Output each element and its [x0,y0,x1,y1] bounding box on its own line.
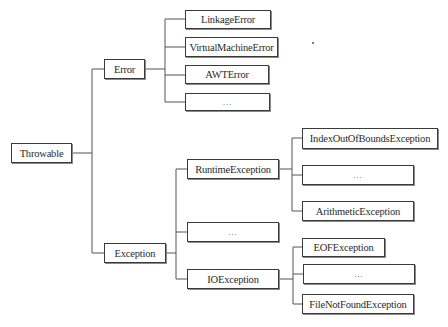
node-linkage-error: LinkageError [185,10,271,29]
connector-exception [166,169,187,279]
node-io-exception: IOException [187,269,279,289]
node-arithmetic-exception: ArithmeticException [302,201,414,221]
node-throwable: Throwable [11,143,72,163]
node-io-more: … [303,264,415,284]
node-eof-exception: EOFException [302,238,385,257]
node-file-not-found-exception: FileNotFoundException [302,294,414,314]
stray-dot-mark [312,42,314,44]
connector-error [145,19,185,102]
node-virtual-machine-error: VirtualMachineError [185,37,278,57]
node-exception: Exception [104,243,166,263]
node-runtime-more: … [302,165,414,185]
connector-runtime-exception [279,138,302,211]
node-exception-more: … [187,222,279,242]
node-awt-error: AWTError [185,65,269,84]
node-error-more: … [185,93,270,111]
exception-hierarchy-diagram: Throwable Error Exception LinkageError V… [0,0,448,327]
connector-io-exception [279,247,303,304]
node-index-out-of-bounds-exception: IndexOutOfBoundsException [302,128,438,149]
connector-throwable [72,69,104,253]
node-runtime-exception: RuntimeException [187,159,279,179]
node-error: Error [104,59,145,79]
